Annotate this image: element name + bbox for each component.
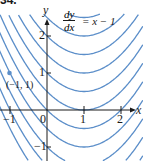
x-tick-label: −1	[3, 113, 16, 125]
y-tick-label: 1	[39, 66, 45, 78]
equation-fraction: dy dx	[63, 8, 75, 33]
equation-numerator: dy	[63, 8, 75, 21]
x-axis-label: x	[136, 104, 141, 116]
y-axis-label: y	[43, 4, 48, 16]
x-tick-label: 1	[80, 113, 86, 125]
x-tick-label: 2	[117, 113, 123, 125]
initial-point-marker	[7, 71, 12, 76]
x-tick-label: 0	[40, 113, 46, 125]
equation-rhs: = x − 1	[82, 15, 115, 27]
point-label: (−1, 1)	[6, 80, 33, 90]
y-tick-label: −1	[34, 140, 47, 152]
y-tick-label: 2	[39, 29, 45, 41]
solution-curve	[19, 15, 143, 73]
equation-denominator: dx	[63, 21, 75, 33]
